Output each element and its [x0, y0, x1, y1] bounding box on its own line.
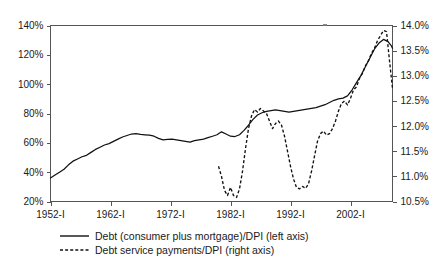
left-axis-tick-label: 140%	[18, 20, 44, 31]
right-axis-tick-label: 12.0%	[401, 121, 429, 132]
legend-label-debt-to-dpi: Debt (consumer plus mortgage)/DPI (left …	[95, 230, 309, 242]
x-axis-tick-label: 1982-I	[216, 209, 244, 220]
right-axis-tick-label: 14.0%	[401, 20, 429, 31]
right-axis-tick-label: 11.0%	[401, 171, 429, 182]
chart-figure: 20%40%60%80%100%120%140% 10.5%11.0%11.5%…	[0, 0, 447, 270]
x-axis-tick-label: 1992-I	[276, 209, 304, 220]
right-axis-tick-label: 13.0%	[401, 70, 429, 81]
left-axis-tick-label: 40%	[23, 167, 43, 178]
left-axis-tick-label: 20%	[23, 196, 43, 207]
x-axis-tick-label: 1962-I	[96, 209, 124, 220]
x-axis-tick-label: 1972-I	[156, 209, 184, 220]
right-axis-tick-label: 12.5%	[401, 95, 429, 106]
x-axis-tick-label: 2002-I	[336, 209, 364, 220]
artifact-speck	[323, 24, 327, 26]
right-axis-tick-label: 13.5%	[401, 45, 429, 56]
right-axis-tick-label: 10.5%	[401, 196, 429, 207]
left-axis-tick-label: 120%	[18, 49, 44, 60]
legend-label-debt-service: Debt service payments/DPI (right axis)	[95, 244, 274, 256]
left-axis-tick-label: 80%	[23, 108, 43, 119]
left-axis-tick-label: 100%	[18, 79, 44, 90]
debt-to-dpi-line-chart: 20%40%60%80%100%120%140% 10.5%11.0%11.5%…	[0, 0, 447, 270]
left-axis-tick-label: 60%	[23, 137, 43, 148]
x-axis-tick-label: 1952-I	[36, 209, 64, 220]
right-axis-tick-label: 11.5%	[401, 146, 429, 157]
